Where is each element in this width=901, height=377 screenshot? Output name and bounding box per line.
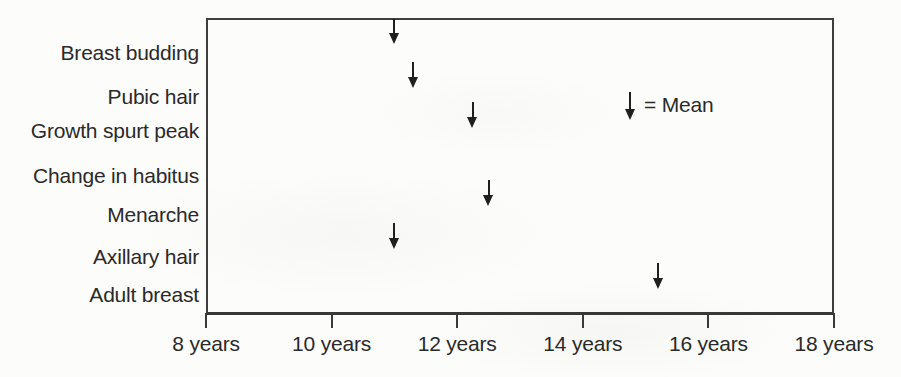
arrow-head — [483, 195, 493, 206]
category-label: Breast budding — [0, 40, 199, 66]
arrow-head — [408, 77, 418, 88]
category-label: Pubic hair — [0, 84, 199, 110]
mean-arrow-icon — [467, 102, 479, 128]
mean-arrow-icon — [388, 19, 400, 44]
mean-arrow-icon — [388, 223, 400, 249]
x-tick-label: 14 years — [543, 332, 622, 356]
pubertal-milestones-figure: Breast buddingPubic hairGrowth spurt pea… — [0, 0, 901, 377]
mean-arrow-icon — [652, 263, 664, 289]
category-label: Change in habitus — [0, 163, 199, 189]
x-tick — [205, 313, 207, 328]
x-tick-label: 18 years — [795, 332, 874, 356]
x-tick-label: 16 years — [669, 332, 748, 356]
x-tick — [582, 313, 584, 328]
category-label: Axillary hair — [0, 244, 199, 270]
arrow-head — [467, 117, 477, 128]
arrow-head — [389, 33, 399, 44]
x-tick-label: 12 years — [418, 332, 497, 356]
x-tick-label: 10 years — [292, 332, 371, 356]
arrow-head — [389, 238, 399, 249]
x-tick — [331, 313, 333, 328]
legend: = Mean — [624, 91, 744, 121]
x-tick — [833, 313, 835, 328]
legend-label: = Mean — [644, 93, 713, 117]
arrow-head — [653, 278, 663, 289]
plot-area — [206, 18, 834, 315]
x-tick-label: 8 years — [172, 332, 239, 356]
x-tick — [707, 313, 709, 328]
arrow-head — [625, 109, 635, 120]
mean-arrow-icon — [407, 62, 419, 88]
mean-arrow-icon — [483, 180, 495, 206]
x-tick — [456, 313, 458, 328]
category-label: Adult breast — [0, 282, 199, 308]
down-arrow-icon — [624, 92, 636, 120]
category-label: Growth spurt peak — [0, 118, 199, 144]
category-label: Menarche — [0, 202, 199, 228]
